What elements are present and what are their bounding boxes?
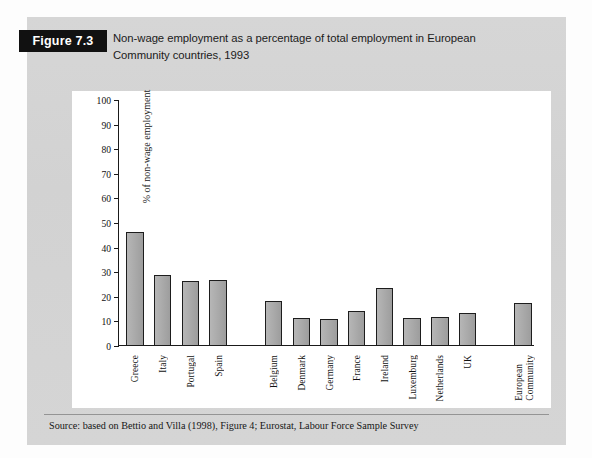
x-label-denmark: Denmark	[297, 355, 308, 391]
x-axis-labels: GreeceItalyPortugalSpainBelgiumDenmarkGe…	[118, 355, 534, 458]
bar-germany	[320, 319, 338, 345]
x-label-european-community: European Community	[514, 355, 536, 401]
bar-luxemburg	[403, 318, 421, 345]
y-tick-label: 30	[101, 267, 111, 278]
y-tick-label: 90	[101, 119, 111, 130]
bar-france	[348, 311, 366, 345]
x-label-ireland: Ireland	[380, 355, 391, 382]
y-tick-label: 60	[101, 193, 111, 204]
y-tick-mark	[114, 346, 119, 347]
bar-ireland	[376, 288, 394, 346]
bar-series	[118, 100, 534, 346]
x-label-luxemburg: Luxemburg	[408, 355, 419, 399]
figure-number-badge: Figure 7.3	[19, 30, 107, 52]
bar-european-community	[514, 303, 532, 346]
source-note: Source: based on Bettio and Villa (1998)…	[49, 420, 419, 431]
x-label-greece: Greece	[130, 355, 141, 382]
x-label-france: France	[352, 355, 363, 381]
bar-portugal	[182, 281, 200, 345]
x-label-portugal: Portugal	[186, 355, 197, 388]
x-label-italy: Italy	[158, 355, 169, 373]
y-tick-label: 100	[97, 95, 111, 106]
chart-canvas: % of non-wage employment 010203040506070…	[72, 91, 551, 408]
bar-belgium	[265, 301, 283, 345]
bar-denmark	[293, 318, 311, 345]
figure-caption: Non-wage employment as a percentage of t…	[113, 30, 543, 63]
x-label-germany: Germany	[325, 355, 336, 391]
x-label-spain: Spain	[214, 355, 225, 377]
x-label-uk: UK	[463, 355, 474, 369]
bar-greece	[126, 232, 144, 345]
y-tick-label: 10	[101, 316, 111, 327]
figure-screenshot: Figure 7.3 Non-wage employment as a perc…	[0, 0, 592, 458]
y-tick-label: 50	[101, 218, 111, 229]
bar-uk	[459, 313, 477, 345]
bar-italy	[154, 275, 172, 345]
caption-line-2: Community countries, 1993	[113, 47, 543, 64]
y-tick-label: 70	[101, 168, 111, 179]
y-tick-label: 40	[101, 242, 111, 253]
y-tick-label: 20	[101, 291, 111, 302]
caption-line-1: Non-wage employment as a percentage of t…	[113, 30, 543, 47]
bar-netherlands	[431, 317, 449, 346]
plot-area: 0102030405060708090100	[118, 100, 534, 346]
x-label-belgium: Belgium	[269, 355, 280, 388]
y-tick-label: 0	[106, 341, 111, 352]
bar-spain	[209, 280, 227, 345]
x-label-netherlands: Netherlands	[435, 355, 446, 401]
y-tick-label: 80	[101, 144, 111, 155]
source-divider	[44, 414, 549, 415]
